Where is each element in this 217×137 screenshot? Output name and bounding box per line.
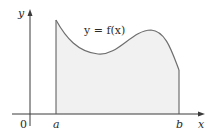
bound-a-label: a [53,118,60,131]
bound-b-label: b [176,118,183,131]
origin-label: 0 [20,118,27,131]
x-axis-label: x [198,118,205,131]
area-under-curve-diagram: y = f(x) y x 0 a b [0,0,217,137]
x-axis-arrow-icon [198,112,205,117]
y-axis-arrow-icon [28,9,33,16]
y-axis-label: y [17,7,25,20]
y-axis [28,9,33,126]
curve-label: y = f(x) [83,24,125,37]
